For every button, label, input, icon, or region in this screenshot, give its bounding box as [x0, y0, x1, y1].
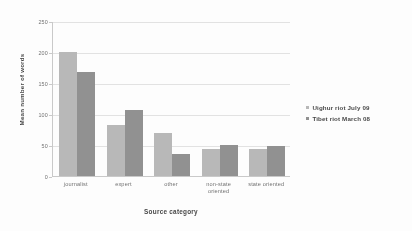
y-axis-tick-label: 100 — [22, 112, 48, 118]
bar — [154, 133, 172, 176]
bar — [249, 149, 267, 176]
bar — [107, 125, 125, 176]
x-axis-title: Source category — [52, 208, 290, 215]
legend-item: Tibet riot March 08 — [306, 115, 410, 122]
y-axis-tick-label: 50 — [22, 143, 48, 149]
legend-item: Uighur riot July 09 — [306, 104, 410, 111]
bar-chart-figure: 050100150200250 journalistexpertothernon… — [0, 0, 412, 231]
bar — [267, 146, 285, 176]
bar — [125, 110, 143, 176]
y-axis-tick-mark — [49, 177, 52, 178]
y-axis-tick-label: 200 — [22, 50, 48, 56]
plot-area — [52, 22, 290, 177]
legend-label: Tibet riot March 08 — [312, 115, 370, 122]
legend: Uighur riot July 09Tibet riot March 08 — [306, 104, 410, 126]
bar-group — [148, 22, 196, 176]
bar — [77, 72, 95, 176]
bar-group — [196, 22, 244, 176]
bar-group — [101, 22, 149, 176]
bar-group — [243, 22, 291, 176]
bars-layer — [53, 22, 290, 176]
legend-swatch — [306, 106, 309, 109]
x-axis-tick-label: state oriented — [229, 181, 303, 188]
bar — [172, 154, 190, 176]
bar — [59, 52, 77, 176]
legend-swatch — [306, 117, 309, 120]
y-axis-title: Mean number of words — [18, 42, 25, 138]
y-axis-tick-label: 150 — [22, 81, 48, 87]
bar — [202, 149, 220, 176]
legend-label: Uighur riot July 09 — [312, 104, 369, 111]
y-axis-tick-label: 0 — [22, 174, 48, 180]
y-axis-tick-label: 250 — [22, 19, 48, 25]
bar-group — [53, 22, 101, 176]
bar — [220, 145, 238, 176]
